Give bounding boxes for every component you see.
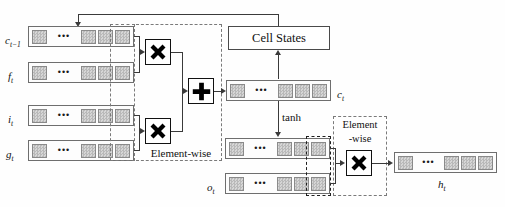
multiply-icon xyxy=(350,154,368,172)
wire-arrow-input xyxy=(140,128,145,134)
vector-label-i-t: it xyxy=(8,113,13,128)
multiply-icon xyxy=(149,43,167,61)
tanh-label: tanh xyxy=(282,111,316,123)
wire-arrow-states xyxy=(275,50,281,55)
cell-states-box: Cell States xyxy=(228,26,330,50)
vector-ellipsis: ••• xyxy=(47,111,81,120)
vector-ellipsis: ••• xyxy=(413,158,444,167)
wire-arrow-ht xyxy=(388,160,393,166)
vector-cell xyxy=(229,142,244,156)
vector-label-c-t: ct xyxy=(337,88,344,103)
multiply-operator-forget xyxy=(145,39,171,65)
vector-cell xyxy=(32,66,47,80)
elementwise-label-left: Element-wise xyxy=(141,147,221,159)
vector-cell xyxy=(278,84,293,98)
vector-cell xyxy=(295,84,310,98)
vector-cell xyxy=(398,156,413,170)
elementwise-label-right-line2: -wise xyxy=(333,133,387,144)
vector-cell xyxy=(81,30,96,44)
wire-arrow-forget xyxy=(140,49,145,55)
wire-arrow-output xyxy=(340,160,345,166)
vector-ellipsis: ••• xyxy=(47,32,81,41)
vector-label-h-t: ht xyxy=(438,178,446,193)
vector-ellipsis: ••• xyxy=(47,146,81,155)
vector-cell xyxy=(32,109,47,123)
vector-cell xyxy=(32,144,47,158)
vector-cell xyxy=(312,84,327,98)
wire-arrow-plus xyxy=(183,88,188,94)
plus-icon xyxy=(192,82,211,101)
vector-cell xyxy=(444,156,459,170)
vector-label-g-t: gt xyxy=(6,148,14,163)
elementwise-label-right-line1: Element xyxy=(333,119,387,130)
multiply-operator-output xyxy=(346,150,372,176)
vector-label-c-prev: ct−1 xyxy=(5,34,21,49)
selection-box-left-last-cells xyxy=(110,24,135,161)
vector-ellipsis: ••• xyxy=(244,179,277,188)
multiply-icon xyxy=(149,122,167,140)
vector-ellipsis: ••• xyxy=(245,86,278,95)
vector-cell xyxy=(81,109,96,123)
vector-cell xyxy=(478,156,493,170)
vector-cell xyxy=(277,142,292,156)
wire-ct-to-states xyxy=(278,55,279,79)
vector-h-t: ••• xyxy=(394,152,497,173)
multiply-operator-input xyxy=(145,118,171,144)
selection-box-right-last-cells xyxy=(306,136,331,196)
feedback-line-horizontal xyxy=(78,14,279,15)
vector-c-t: ••• xyxy=(226,80,331,101)
vector-label-o-t: ot xyxy=(207,181,215,196)
vector-ellipsis: ••• xyxy=(47,68,81,77)
wire-arrow-ct xyxy=(221,88,226,94)
wire-join-output xyxy=(335,148,336,184)
vector-cell xyxy=(229,177,244,191)
add-operator-cell-state xyxy=(188,78,214,104)
vector-cell xyxy=(277,177,292,191)
vector-cell xyxy=(230,84,245,98)
vector-label-f-t: ft xyxy=(8,70,13,85)
wire-arrow-tanh xyxy=(275,132,281,137)
vector-ellipsis: ••• xyxy=(244,144,277,153)
vector-cell xyxy=(81,66,96,80)
lstm-cell-diagram: ct−1 ••• ft ••• it ••• gt ••• xyxy=(0,0,505,207)
cell-states-label: Cell States xyxy=(252,31,306,46)
vector-cell xyxy=(461,156,476,170)
vector-cell xyxy=(32,30,47,44)
wire-output-to-ht xyxy=(372,163,389,164)
vector-cell xyxy=(81,144,96,158)
wire-ct-to-tanh xyxy=(278,101,279,134)
